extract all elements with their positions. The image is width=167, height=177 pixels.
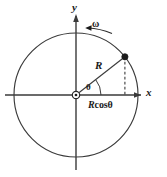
projection-label-r: R: [88, 99, 95, 110]
origin-dot: [75, 94, 78, 97]
y-axis-label: y: [72, 2, 77, 13]
x-axis-label: x: [146, 87, 152, 98]
angle-theta-label: θ: [86, 83, 91, 92]
y-axis-arrowhead: [73, 14, 79, 22]
angle-arc: [96, 80, 101, 95]
angular-velocity-label: ω: [92, 19, 99, 29]
rotation-arrowhead: [85, 25, 91, 31]
projection-label-cos: cosθ: [95, 99, 113, 110]
diagram-canvas: [0, 0, 167, 177]
radius-label: R: [95, 60, 102, 71]
point-on-circle: [122, 54, 128, 60]
physics-circle-diagram: y x R ω θ Rcosθ: [0, 0, 167, 177]
origin-marker: [72, 91, 79, 98]
projection-label: Rcosθ: [88, 100, 113, 110]
